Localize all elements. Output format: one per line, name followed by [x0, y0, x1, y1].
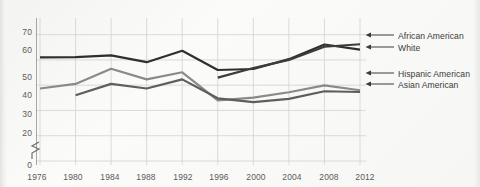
legend-arrow-african-american	[365, 31, 395, 39]
x-tick-label: 2000	[239, 172, 273, 182]
legend-arrow-asian-american	[365, 80, 395, 88]
legend-label-asian-american: Asian American	[398, 80, 458, 90]
legend-arrow-hispanic-american	[365, 69, 395, 77]
chart-page: 70 60 50 40 30 20 0 1976 1980 1984 1988 …	[0, 0, 480, 187]
legend-label-african-american: African American	[398, 31, 464, 41]
legend-arrow-white	[365, 43, 395, 51]
y-tick-label: 20	[10, 128, 32, 138]
x-tick-label: 2012	[348, 172, 382, 182]
x-tick-label: 1992	[166, 172, 200, 182]
x-tick-label: 1980	[56, 172, 90, 182]
axis-break-icon	[29, 141, 45, 161]
y-tick-label: 0	[10, 160, 32, 170]
x-tick-label: 2004	[275, 172, 309, 182]
y-tick-label: 70	[10, 27, 32, 37]
y-tick-label: 50	[10, 72, 32, 82]
x-tick-label: 1996	[202, 172, 236, 182]
legend-label-white: White	[398, 43, 420, 53]
x-tick-label: 1976	[20, 172, 54, 182]
x-tick-label: 1988	[129, 172, 163, 182]
y-tick-label: 40	[10, 90, 32, 100]
legend-label-hispanic-american: Hispanic American	[398, 69, 470, 79]
y-tick-label: 60	[10, 45, 32, 55]
series-line	[40, 69, 360, 101]
series-lines	[40, 44, 360, 102]
series-line	[40, 44, 360, 70]
y-tick-label: 30	[10, 109, 32, 119]
plot-area	[36, 18, 366, 165]
x-tick-label: 1984	[93, 172, 127, 182]
x-tick-label: 2008	[312, 172, 346, 182]
